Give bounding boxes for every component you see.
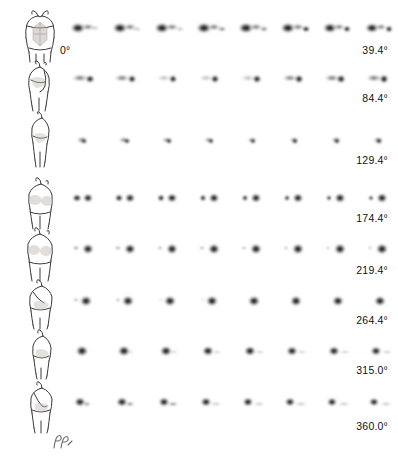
row-angle-label: 360.0° [356,420,388,432]
frame-strip [64,330,398,382]
frame-strip [64,382,398,436]
start-angle-label: 0° [60,44,70,56]
row-angle-label: 219.4° [356,264,388,276]
frame-strip [64,228,398,280]
scan-frame [64,58,106,98]
scan-frame [106,280,148,320]
scan-frame [148,178,190,218]
scan-frame [232,58,274,98]
scan-frame [148,280,190,320]
scan-frame [358,382,398,422]
scan-frame [190,280,232,320]
scan-frame [64,228,106,268]
scan-row: 360.0° [0,380,398,434]
scan-frame [64,330,106,370]
scan-frame [274,382,316,422]
body-diagram-anterior-oblique [14,380,66,434]
body-diagram-left-posterior-oblique [14,278,66,330]
scan-frame [316,58,358,98]
scan-frame [190,382,232,422]
scan-frame [148,8,190,48]
frame-strip [64,120,398,180]
scan-frame [274,58,316,98]
row-angle-label: 315.0° [356,364,388,376]
scan-frame [274,280,316,320]
body-diagram-left-lateral [14,328,66,380]
scan-frame [232,382,274,422]
scan-frame [274,120,316,160]
scan-frame [316,120,358,160]
row-angle-label: 129.4° [356,154,388,166]
scan-frame [106,8,148,48]
scan-frame [232,178,274,218]
scan-frame [148,120,190,160]
row-angle-label: 174.4° [356,212,388,224]
scan-frame [106,58,148,98]
scan-frame [148,330,190,370]
scan-frame [64,8,106,48]
frame-strip [64,8,398,56]
scan-row: 84.4° [0,58,398,104]
scintigraphy-figure-sheet: 0° 39.4° [0,0,398,464]
scan-frame [190,178,232,218]
body-diagram-posterior-upper [14,226,66,282]
scan-frame [106,120,148,160]
row-angle-label: 39.4° [362,44,388,56]
scan-row: 174.4° [0,176,398,226]
scan-frame [190,58,232,98]
scan-frame [106,228,148,268]
body-diagram-anterior [14,8,66,64]
scan-frame [316,382,358,422]
scan-frame [232,120,274,160]
scan-frame [190,120,232,160]
scan-frame [358,8,398,48]
scan-frame [316,228,358,268]
row-angle-label: 264.4° [356,314,388,326]
frame-strip [64,178,398,228]
scan-frame [64,120,106,160]
scan-frame [64,382,106,422]
scan-frame [64,280,106,320]
body-diagram-right-lateral [14,58,66,112]
scan-frame [148,58,190,98]
scan-frame [274,178,316,218]
scan-frame [316,178,358,218]
scan-frame [106,330,148,370]
scan-frame [316,280,358,320]
clipped-caption [0,456,398,464]
scan-frame [106,178,148,218]
scan-frame [232,280,274,320]
scan-frame [190,330,232,370]
scan-frame [232,330,274,370]
hand-drawn-initials-mark [50,433,76,451]
scan-row: 129.4° [0,106,398,166]
scan-frame [106,382,148,422]
frame-strip [64,280,398,330]
scan-frame [232,228,274,268]
scan-frame [274,228,316,268]
scan-frame [316,8,358,48]
scan-frame [190,8,232,48]
body-diagram-posterior [14,176,66,230]
scan-row: 315.0° [0,328,398,380]
scan-frame [274,8,316,48]
scan-frame [190,228,232,268]
scan-row: 219.4° [0,226,398,278]
scan-row: 0° 39.4° [0,8,398,56]
scan-frame [148,382,190,422]
scan-row: 264.4° [0,278,398,328]
scan-frame [316,330,358,370]
scan-frame [148,228,190,268]
scan-frame [232,8,274,48]
row-angle-label: 84.4° [362,92,388,104]
frame-strip [64,58,398,104]
scan-frame [358,228,398,268]
scan-frame [274,330,316,370]
body-diagram-posterior-oblique [14,110,66,168]
scan-frame [64,178,106,218]
